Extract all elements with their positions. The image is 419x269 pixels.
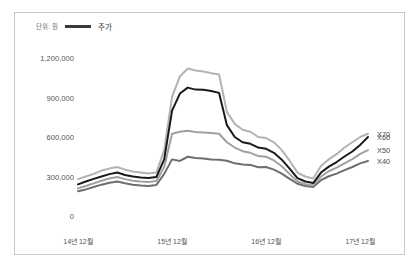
series-end-label-x50: X50 <box>377 146 390 155</box>
x-axis-tick-label: 14년 12월 <box>63 236 93 246</box>
line-series-group <box>78 58 368 216</box>
plot-area <box>78 58 368 216</box>
y-axis-tick-label: 900,000 <box>47 93 74 102</box>
y-axis-tick-label: 0 <box>70 212 74 221</box>
series-line-x70 <box>78 69 368 180</box>
x-axis-tick-label: 16년 12월 <box>251 236 281 246</box>
x-axis-tick-label: 17년 12월 <box>345 236 375 246</box>
y-axis: 1,200,000900,000600,000300,0000 <box>0 0 74 269</box>
series-end-label-x60: X60 <box>377 133 390 142</box>
y-axis-tick-label: 600,000 <box>47 133 74 142</box>
y-axis-tick-label: 300,000 <box>47 172 74 181</box>
x-axis: 14년 12월15년 12월16년 12월17년 12월 <box>0 236 419 250</box>
series-end-label-x40: X40 <box>377 156 390 165</box>
series-line-x60 <box>78 88 368 185</box>
x-axis-tick-label: 15년 12월 <box>157 236 187 246</box>
chart-figure: 단위: 원 주가 1,200,000900,000600,000300,0000… <box>0 0 419 269</box>
legend-series-label: 주가 <box>98 21 112 32</box>
y-axis-tick-label: 1,200,000 <box>40 54 74 63</box>
